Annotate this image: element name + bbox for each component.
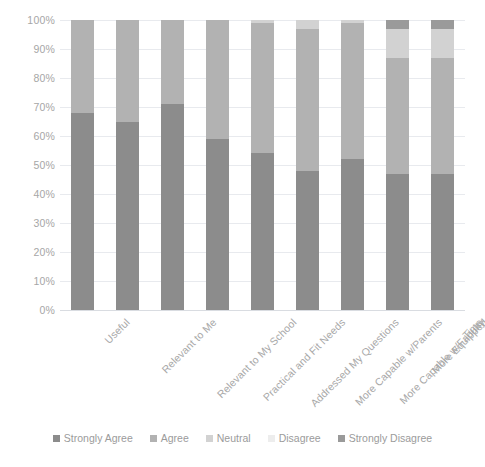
bar-group[interactable]: [341, 20, 364, 310]
bar-segment-strongly-agree[interactable]: [161, 104, 184, 310]
y-axis: 100%90%80%70%60%50%40%30%20%10%0%: [0, 20, 55, 310]
bar-group[interactable]: [251, 20, 274, 310]
bar-segment-agree[interactable]: [206, 20, 229, 139]
y-axis-tick-label: 0%: [9, 305, 55, 315]
bar-stack: [431, 20, 454, 310]
bar-stack: [296, 20, 319, 310]
x-axis-tick-label: More Capable w/Parents: [352, 316, 444, 408]
bar-segment-agree[interactable]: [71, 20, 94, 113]
bar-segment-agree[interactable]: [251, 23, 274, 154]
bar-segment-strongly-agree[interactable]: [251, 153, 274, 310]
bar-stack: [251, 20, 274, 310]
bar-segment-strongly-agree[interactable]: [206, 139, 229, 310]
bar-group[interactable]: [431, 20, 454, 310]
legend-label: Strongly Disagree: [349, 432, 432, 444]
legend-label: Strongly Agree: [64, 432, 133, 444]
bar-group[interactable]: [161, 20, 184, 310]
bar-stack: [386, 20, 409, 310]
legend-item[interactable]: Strongly Agree: [53, 432, 133, 444]
y-axis-tick-label: 30%: [9, 218, 55, 228]
x-axis-tick-label: Useful: [101, 316, 131, 346]
y-axis-tick-label: 100%: [9, 15, 55, 25]
bar-segment-strongly-agree[interactable]: [71, 113, 94, 310]
y-axis-tick-label: 40%: [9, 189, 55, 199]
bar-group[interactable]: [71, 20, 94, 310]
y-axis-tick-label: 70%: [9, 102, 55, 112]
bar-segment-strongly-agree[interactable]: [116, 122, 139, 311]
bar-stack: [206, 20, 229, 310]
legend-swatch-icon: [206, 435, 213, 442]
bar-segment-strongly-agree[interactable]: [386, 174, 409, 310]
y-axis-tick-label: 60%: [9, 131, 55, 141]
legend-swatch-icon: [150, 435, 157, 442]
bar-segment-neutral[interactable]: [431, 29, 454, 58]
bar-segment-strongly-agree[interactable]: [296, 171, 319, 310]
bar-segment-agree[interactable]: [116, 20, 139, 122]
legend: Strongly AgreeAgreeNeutralDisagreeStrong…: [0, 432, 485, 444]
bar-segment-strongly-agree[interactable]: [341, 159, 364, 310]
y-axis-tick-label: 50%: [9, 160, 55, 170]
bar-segment-agree[interactable]: [296, 29, 319, 171]
x-axis-tick-label: Addressed My Questions: [308, 316, 401, 409]
legend-item[interactable]: Strongly Disagree: [338, 432, 432, 444]
legend-label: Disagree: [279, 432, 321, 444]
bar-group[interactable]: [386, 20, 409, 310]
legend-label: Agree: [161, 432, 189, 444]
bar-group[interactable]: [206, 20, 229, 310]
bar-stack: [71, 20, 94, 310]
bar-segment-neutral[interactable]: [296, 20, 319, 29]
bar-stack: [161, 20, 184, 310]
stacked-bar-chart: 100%90%80%70%60%50%40%30%20%10%0% Useful…: [0, 0, 485, 467]
bar-segment-agree[interactable]: [341, 23, 364, 159]
bar-segment-neutral[interactable]: [386, 29, 409, 58]
y-axis-tick-label: 10%: [9, 276, 55, 286]
x-axis: UsefulRelevant to MeRelevant to My Schoo…: [60, 312, 465, 422]
legend-item[interactable]: Disagree: [268, 432, 321, 444]
bar-segment-agree[interactable]: [431, 58, 454, 174]
legend-swatch-icon: [338, 435, 345, 442]
x-axis-tick-label: Relevant to My School: [214, 316, 298, 400]
bar-group[interactable]: [296, 20, 319, 310]
y-axis-tick-label: 80%: [9, 73, 55, 83]
legend-swatch-icon: [53, 435, 60, 442]
bar-segment-strongly-disagree[interactable]: [386, 20, 409, 29]
bar-group[interactable]: [116, 20, 139, 310]
plot-area: [60, 20, 465, 310]
legend-label: Neutral: [217, 432, 251, 444]
legend-swatch-icon: [268, 435, 275, 442]
y-axis-tick-label: 20%: [9, 247, 55, 257]
bar-segment-agree[interactable]: [386, 58, 409, 174]
legend-item[interactable]: Neutral: [206, 432, 251, 444]
legend-item[interactable]: Agree: [150, 432, 189, 444]
bar-segment-agree[interactable]: [161, 20, 184, 104]
gridline: [60, 310, 465, 311]
x-axis-tick-label: Relevant to Me: [159, 316, 218, 375]
bar-stack: [116, 20, 139, 310]
y-axis-tick-label: 90%: [9, 44, 55, 54]
bar-segment-strongly-agree[interactable]: [431, 174, 454, 310]
bar-segment-strongly-disagree[interactable]: [431, 20, 454, 29]
bar-stack: [341, 20, 364, 310]
